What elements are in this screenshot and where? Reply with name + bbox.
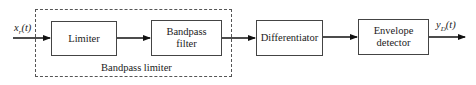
differentiator-block: Differentiator [256, 20, 323, 56]
limiter-label: Limiter [68, 33, 100, 45]
envelope-detector-label-line1: Envelope [374, 25, 414, 37]
input-signal-label: xr(t) [14, 22, 31, 36]
input-signal-arg: (t) [21, 22, 31, 33]
limiter-block: Limiter [51, 21, 117, 56]
envelope-detector-block: Envelope detector [358, 19, 429, 55]
envelope-detector-label-line2: detector [377, 37, 411, 49]
output-signal-arg: (t) [446, 19, 456, 30]
bandpass-filter-block: Bandpass filter [151, 20, 222, 56]
group-label: Bandpass limiter [101, 62, 172, 73]
differentiator-label: Differentiator [261, 32, 319, 44]
bandpass-filter-label-line2: filter [176, 38, 196, 50]
bandpass-filter-label-line1: Bandpass [166, 26, 206, 38]
output-signal-label: yD(t) [436, 19, 456, 33]
